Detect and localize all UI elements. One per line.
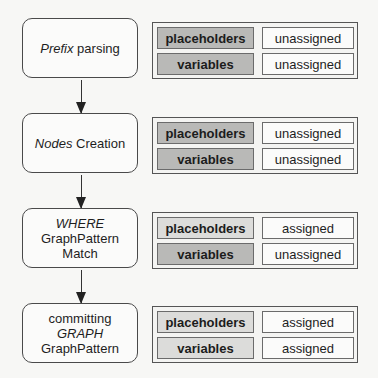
stage-title-line: Nodes Creation bbox=[35, 136, 125, 151]
stage-title-text: GraphPattern bbox=[41, 231, 119, 246]
stage-box-where-graphpattern-match: WHERE GraphPattern Match bbox=[22, 208, 138, 268]
stage-title-text: Match bbox=[62, 246, 97, 261]
flow-arrow bbox=[81, 80, 82, 113]
stage-title-italic: Nodes bbox=[35, 136, 73, 151]
stage-title-line: Prefix parsing bbox=[40, 41, 119, 56]
stage-title-text: Creation bbox=[72, 136, 125, 151]
stage-title-italic: GRAPH bbox=[57, 326, 103, 341]
stage-title-text: committing bbox=[49, 311, 112, 326]
state-panel-committing-graph-graphpattern: placeholders assigned variables assigned bbox=[152, 306, 358, 363]
state-label-placeholders: placeholders bbox=[157, 311, 254, 333]
state-label-placeholders: placeholders bbox=[157, 27, 254, 49]
stage-title-text: GraphPattern bbox=[41, 341, 119, 356]
state-value-variables: unassigned bbox=[262, 148, 354, 170]
state-value-variables: assigned bbox=[262, 337, 354, 359]
state-label-placeholders: placeholders bbox=[157, 217, 254, 239]
state-value-variables: unassigned bbox=[262, 53, 354, 75]
pipeline-diagram: Prefix parsing placeholders unassigned v… bbox=[0, 0, 378, 378]
flow-arrow bbox=[81, 175, 82, 208]
state-label-placeholders: placeholders bbox=[157, 122, 254, 144]
state-value-placeholders: unassigned bbox=[262, 27, 354, 49]
state-value-variables: unassigned bbox=[262, 243, 354, 265]
state-value-placeholders: unassigned bbox=[262, 122, 354, 144]
state-panel-nodes-creation: placeholders unassigned variables unassi… bbox=[152, 117, 358, 174]
stage-box-committing-graph-graphpattern: committing GRAPH GraphPattern bbox=[22, 303, 138, 363]
state-value-placeholders: assigned bbox=[262, 217, 354, 239]
state-label-variables: variables bbox=[157, 337, 254, 359]
state-label-variables: variables bbox=[157, 148, 254, 170]
stage-box-nodes-creation: Nodes Creation bbox=[22, 113, 138, 173]
stage-title-italic: Prefix bbox=[40, 41, 73, 56]
flow-arrow bbox=[81, 270, 82, 303]
state-label-variables: variables bbox=[157, 243, 254, 265]
stage-title-italic: WHERE bbox=[56, 216, 104, 231]
state-panel-where-graphpattern-match: placeholders assigned variables unassign… bbox=[152, 212, 358, 269]
stage-title-text: parsing bbox=[73, 41, 119, 56]
state-panel-prefix-parsing: placeholders unassigned variables unassi… bbox=[152, 22, 358, 79]
state-label-variables: variables bbox=[157, 53, 254, 75]
state-value-placeholders: assigned bbox=[262, 311, 354, 333]
stage-box-prefix-parsing: Prefix parsing bbox=[22, 18, 138, 78]
